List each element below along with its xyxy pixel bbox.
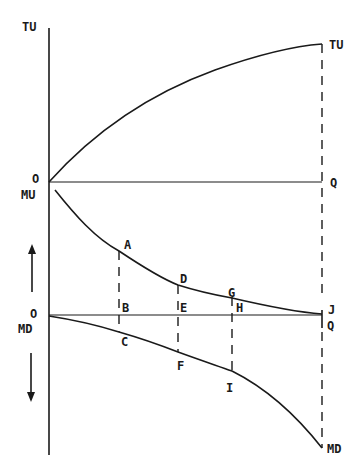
point-g-label: G (228, 286, 235, 300)
up-arrow-icon (28, 244, 36, 292)
upper-origin-label: O (32, 172, 39, 186)
lower-origin-label: O (30, 307, 37, 321)
tu-axis-label: TU (22, 20, 36, 34)
tu-curve-end-label: TU (329, 38, 343, 52)
md-axis-label: MD (18, 322, 32, 336)
md-curve-end-label: MD (327, 442, 341, 456)
point-i-label: I (226, 381, 233, 395)
utility-diagram: TU TU O Q MU A B C D E F G H I O MD J Q … (0, 0, 363, 472)
point-f-label: F (177, 359, 184, 373)
tu-curve (49, 44, 322, 182)
down-arrow-icon (27, 353, 35, 402)
upper-q-label: Q (330, 176, 337, 190)
point-a-label: A (124, 238, 132, 252)
point-h-label: H (236, 301, 243, 315)
mu-axis-label: MU (21, 188, 35, 202)
point-e-label: E (180, 301, 187, 315)
md-curve (49, 316, 322, 448)
point-j-label: J (328, 303, 335, 317)
point-d-label: D (180, 272, 187, 286)
point-b-label: B (122, 301, 129, 315)
mu-curve (55, 190, 322, 314)
lower-q-label: Q (327, 319, 334, 333)
point-c-label: C (121, 335, 128, 349)
